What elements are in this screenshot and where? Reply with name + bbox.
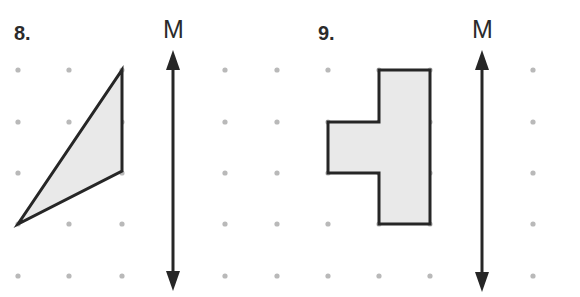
grid-dot — [15, 119, 20, 124]
grid-dot — [325, 221, 330, 226]
grid-dot — [427, 273, 432, 278]
grid-dot — [66, 119, 71, 124]
grid-dot — [530, 67, 535, 72]
arrow-up-icon — [475, 50, 489, 70]
problem-number: 9. — [318, 22, 335, 44]
triangle-shape — [18, 70, 122, 224]
grid-dot — [222, 221, 227, 226]
reflection-exercises: 8. M 9. M — [0, 0, 580, 297]
grid-dot — [222, 67, 227, 72]
arrow-down-icon — [475, 272, 489, 292]
grid-dot — [530, 170, 535, 175]
mirror-line-arrow — [475, 50, 489, 292]
problem-8: 8. M — [14, 15, 280, 291]
grid-dot — [66, 273, 71, 278]
grid-dot — [274, 119, 279, 124]
arrow-down-icon — [166, 271, 180, 291]
grid-dot — [530, 119, 535, 124]
grid-dot — [119, 221, 124, 226]
t-shape — [328, 70, 430, 224]
mirror-label: M — [163, 15, 184, 43]
grid-dot — [119, 273, 124, 278]
arrow-up-icon — [166, 50, 180, 70]
mirror-line-arrow — [166, 50, 180, 291]
mirror-label: M — [472, 15, 493, 43]
grid-dot — [530, 273, 535, 278]
grid-dot — [274, 221, 279, 226]
problem-9: 9. M — [318, 15, 536, 292]
grid-dot — [325, 273, 330, 278]
grid-dot — [376, 273, 381, 278]
grid-dot — [66, 221, 71, 226]
grid-dot — [325, 67, 330, 72]
grid-dot — [274, 170, 279, 175]
grid-dot — [15, 67, 20, 72]
grid-dot — [274, 67, 279, 72]
grid-dot — [222, 273, 227, 278]
grid-dot — [530, 221, 535, 226]
grid-dot — [15, 273, 20, 278]
grid-dot — [66, 67, 71, 72]
grid-dot — [274, 273, 279, 278]
grid-dot — [15, 170, 20, 175]
grid-dot — [222, 119, 227, 124]
problem-number: 8. — [14, 22, 31, 44]
grid-dot — [222, 170, 227, 175]
